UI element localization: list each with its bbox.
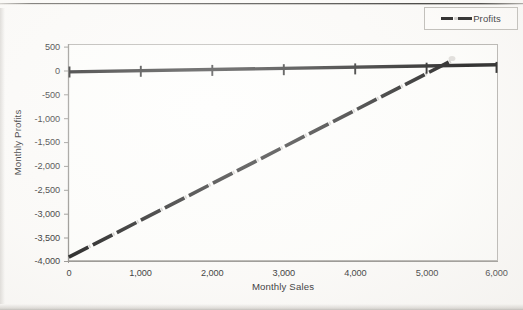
scan-bottom-edge-artifact <box>0 304 523 310</box>
chart-canvas <box>0 0 523 310</box>
x-tick-label: 6,000 <box>475 269 519 278</box>
x-axis-title: Monthly Sales <box>203 281 363 292</box>
x-tick-label: 5,000 <box>405 269 449 278</box>
x-tick-label: 2,000 <box>190 269 234 278</box>
x-tick-label: 0 <box>47 269 91 278</box>
x-tick-label: 3,000 <box>262 269 306 278</box>
y-axis-ticks <box>64 47 69 261</box>
y-tick-label: -3,000 <box>8 210 60 219</box>
y-tick-label: 500 <box>8 43 60 52</box>
scan-speckle <box>449 56 456 61</box>
y-axis-title: Monthly Profits <box>12 95 23 191</box>
x-tick-label: 4,000 <box>333 269 377 278</box>
x-tick-label: 1,000 <box>119 269 163 278</box>
y-tick-label: 0 <box>8 67 60 76</box>
y-tick-label: -4,000 <box>8 257 60 266</box>
y-tick-label: -3,500 <box>8 234 60 243</box>
